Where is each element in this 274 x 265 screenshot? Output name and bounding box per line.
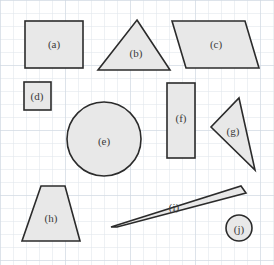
shape-h-trapezoid[interactable]: (h) bbox=[22, 186, 80, 241]
shape-i-thin-parallelogram[interactable]: (i) bbox=[111, 186, 246, 227]
shape-a-rectangle[interactable]: (a) bbox=[25, 21, 83, 68]
shape-f-rectangle[interactable]: (f) bbox=[167, 83, 195, 158]
shape-j-circle[interactable]: (j) bbox=[226, 215, 252, 241]
shape-e-circle[interactable]: (e) bbox=[67, 102, 141, 176]
geometry-figure: (a) (b) (c) (d) (e) (f) (g) (h) bbox=[0, 0, 274, 265]
shape-d-label: (d) bbox=[31, 90, 44, 103]
shape-i-label: (i) bbox=[169, 201, 180, 214]
shape-b-outline bbox=[98, 20, 170, 70]
shape-a-label: (a) bbox=[48, 38, 61, 51]
shape-e-label: (e) bbox=[98, 135, 111, 148]
shape-j-label: (j) bbox=[234, 223, 245, 236]
shape-g-label: (g) bbox=[227, 125, 240, 138]
shape-c-parallelogram[interactable]: (c) bbox=[172, 21, 259, 68]
shape-d-square[interactable]: (d) bbox=[24, 82, 51, 110]
shape-b-label: (b) bbox=[130, 47, 143, 60]
shapes-layer: (a) (b) (c) (d) (e) (f) (g) (h) bbox=[0, 0, 274, 265]
shape-g-triangle[interactable]: (g) bbox=[211, 98, 255, 170]
shape-b-triangle[interactable]: (b) bbox=[98, 20, 170, 70]
shape-h-label: (h) bbox=[45, 212, 58, 225]
shape-c-label: (c) bbox=[210, 38, 223, 51]
shape-f-label: (f) bbox=[176, 112, 187, 125]
